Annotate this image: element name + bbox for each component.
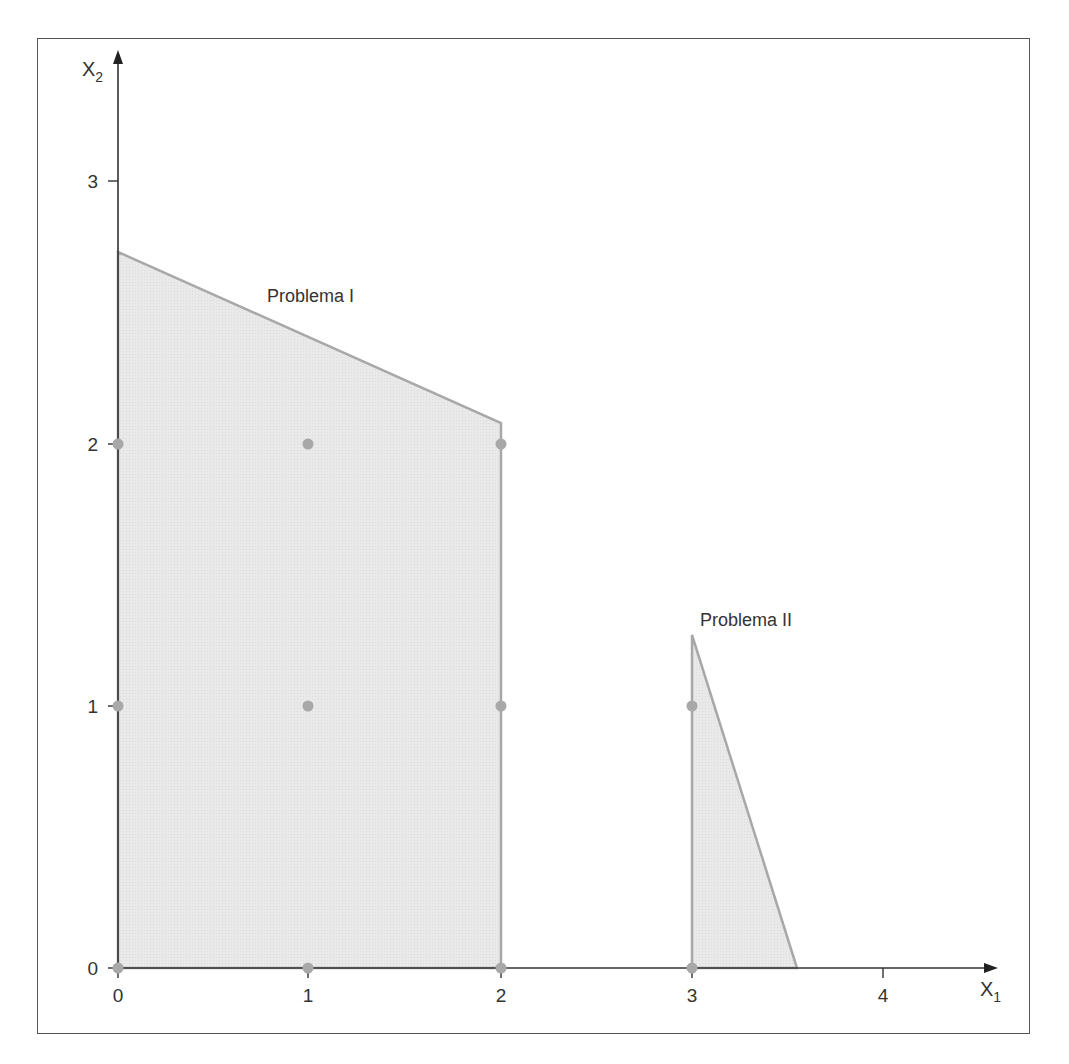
point-2-1 <box>496 701 507 712</box>
region-problema-ii <box>692 635 797 968</box>
region-problema-i <box>118 252 501 968</box>
region-label-problema-i: Problema I <box>267 286 354 306</box>
point-3-1 <box>687 701 698 712</box>
point-1-1 <box>303 701 314 712</box>
x-tick-label-0: 0 <box>113 985 124 1006</box>
point-3-0 <box>687 963 698 974</box>
y-tick-label-1: 1 <box>87 696 98 717</box>
point-0-2 <box>113 439 124 450</box>
x-tick-label-3: 3 <box>687 985 698 1006</box>
x-tick-label-2: 2 <box>496 985 507 1006</box>
y-tick-label-2: 2 <box>87 434 98 455</box>
y-tick-label-3: 3 <box>87 171 98 192</box>
y-axis-title: X2 <box>82 58 103 85</box>
region-label-problema-ii: Problema II <box>700 610 792 630</box>
x-axis-title: X1 <box>980 978 1001 1005</box>
point-1-2 <box>303 439 314 450</box>
chart-canvas: 0 1 2 3 4 0 1 2 3 X1 X2 Problema I Probl… <box>0 0 1069 1064</box>
point-0-1 <box>113 701 124 712</box>
y-ticks <box>108 181 118 968</box>
point-2-2 <box>496 439 507 450</box>
point-1-0 <box>303 963 314 974</box>
point-0-0 <box>113 963 124 974</box>
point-2-0 <box>496 963 507 974</box>
x-tick-label-4: 4 <box>878 985 889 1006</box>
x-axis-arrow-icon <box>984 963 998 973</box>
y-axis-arrow-icon <box>113 50 123 64</box>
y-tick-label-0: 0 <box>87 958 98 979</box>
x-tick-label-1: 1 <box>303 985 314 1006</box>
